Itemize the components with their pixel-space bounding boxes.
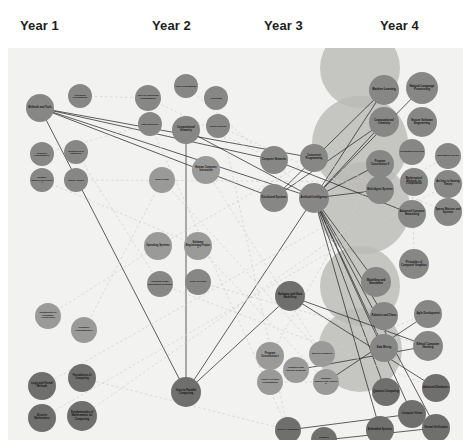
course-node[interactable]: Object Oriented Programming <box>257 369 283 395</box>
course-node-label: Operating Systems <box>145 245 171 248</box>
course-node-label: Modelling and Simulation <box>361 279 391 285</box>
course-node[interactable]: Web Development <box>309 341 335 367</box>
course-node[interactable]: Data Structures <box>138 112 162 136</box>
course-node-label: Principles of Computer Graphics <box>399 261 429 267</box>
course-node-label: Multi-Agent Systems <box>366 189 394 192</box>
course-node-label: Robotics and Chaos <box>371 315 398 318</box>
course-node[interactable]: Robotics and Chaos <box>370 302 398 330</box>
course-node-label: Introduction to Computer Architecture <box>35 312 61 320</box>
column-header-year-3: Year 3 <box>264 18 303 33</box>
course-node[interactable]: Machine Learning <box>369 75 399 105</box>
graph-canvas[interactable]: Methods and ToolsFunctional ProgrammingC… <box>8 48 463 440</box>
course-node[interactable]: Program Construction I <box>256 342 284 370</box>
course-node-label: Information Retrieval <box>399 151 425 154</box>
course-node[interactable]: Secure Software Engineering <box>407 107 437 137</box>
course-node[interactable]: Logic and Formal Methods <box>28 372 56 400</box>
course-node[interactable]: Digital Systems <box>206 114 230 138</box>
course-node[interactable]: Concurrent Programming <box>300 144 328 172</box>
course-node[interactable]: Formal Verification <box>422 414 450 440</box>
course-node[interactable]: Data Mining <box>370 334 398 362</box>
course-node[interactable]: Computer Networks <box>260 146 288 174</box>
course-node-label: Program Construction II <box>366 161 394 167</box>
course-node-label: Distributed Systems <box>261 197 288 200</box>
course-node-label: Sparse Matrices and Systems <box>434 209 462 215</box>
course-node[interactable]: Mathematical Methods for Computation <box>400 168 428 196</box>
course-node[interactable]: Information Theory <box>435 143 461 169</box>
curriculum-graph-app: Year 1Year 2Year 3Year 4 Methods and Too… <box>0 0 470 444</box>
course-node-label: Computer Programming I <box>30 152 54 157</box>
course-node[interactable]: Artificial Intelligence <box>299 183 329 213</box>
course-node[interactable]: Web Design <box>149 167 175 193</box>
course-node-label: Matrix Algebra <box>67 179 84 181</box>
course-node-label: Software Engineering Project 1 <box>184 242 212 251</box>
course-node-label: Fundamentals of Mathematics for Computin… <box>67 411 97 420</box>
course-node[interactable]: Networks and Internet Systems <box>283 357 309 383</box>
course-node[interactable]: Multi-Agent Systems <box>366 176 394 204</box>
course-node[interactable]: Computer Programming I <box>30 142 54 166</box>
course-node[interactable]: Compiler Engineering <box>311 427 337 440</box>
course-node[interactable]: Distributed Systems <box>260 184 288 212</box>
course-node[interactable]: Ethical Computer Hacking <box>413 331 443 361</box>
course-node[interactable]: Natural Language Processing <box>406 72 438 104</box>
course-node-label: Quantum Computing <box>372 391 400 394</box>
course-node[interactable]: Fundamentals of Mathematics for Computin… <box>67 401 97 431</box>
course-node[interactable]: Intro to Functional Programming <box>135 85 161 111</box>
course-node[interactable]: Principles of Computer Graphics <box>399 249 429 279</box>
course-node-label: Advanced Computer Networking <box>398 211 426 217</box>
course-node-label: Software Engineering Project 2 <box>313 378 339 386</box>
course-node[interactable]: Introduction to Databases <box>64 140 88 164</box>
course-node[interactable]: Discrete Mathematics <box>28 404 56 432</box>
course-node[interactable]: Quantum Computing <box>372 378 400 406</box>
course-node[interactable]: Computational Creativity <box>369 107 399 137</box>
course-node-label: Natural Language Processing <box>406 85 438 92</box>
course-node[interactable]: Cyber Security <box>185 269 211 295</box>
course-node-label: Digital Systems <box>209 125 228 127</box>
course-node-label: Concurrent Programming <box>300 155 328 161</box>
course-node[interactable]: Matrix Algebra <box>64 168 88 192</box>
course-node-label: Object Oriented Programming <box>257 379 283 384</box>
course-node[interactable]: Software and Data Modelling <box>275 281 305 311</box>
course-node-label: Foundations of Computing <box>68 375 96 381</box>
course-node[interactable]: Sparse Matrices and Systems <box>434 198 462 226</box>
course-node[interactable]: Information Retrieval <box>399 139 425 165</box>
course-node[interactable]: Embedded Systems <box>366 416 394 440</box>
course-node[interactable]: Intro to Parallel Computing <box>171 377 201 407</box>
course-node[interactable]: Software Engineering Project 1 <box>30 168 54 192</box>
course-node-label: Intro to Functional Programming <box>135 95 161 100</box>
course-node[interactable]: Operating Systems <box>144 232 172 260</box>
course-node-label: Networks and Internet Systems <box>283 367 309 372</box>
course-node-label: Software Engineering Project 1 <box>30 176 54 183</box>
course-node[interactable]: Databases and Information Systems <box>147 271 173 297</box>
course-node[interactable]: Human Computer Interaction <box>192 156 220 184</box>
course-node[interactable]: Program Construction II <box>366 150 394 178</box>
course-node[interactable]: Foundations of Computing <box>68 364 96 392</box>
course-node[interactable]: Intro to Algorithms <box>275 417 301 440</box>
course-node[interactable]: Functional Programming <box>68 84 92 108</box>
course-node[interactable]: Agile Development <box>414 300 442 328</box>
course-node[interactable]: Advanced Databases <box>422 374 450 402</box>
nodes-layer: Methods and ToolsFunctional ProgrammingC… <box>8 48 463 440</box>
course-node-label: Embedded Systems <box>367 429 394 432</box>
course-node-label: Functional Programming <box>68 94 92 99</box>
course-node-label: Information Theory <box>436 155 460 158</box>
course-node-label: Web Development <box>311 353 334 356</box>
course-node-label: Compiler Engineering <box>311 437 337 440</box>
course-node[interactable]: Software Engineering Project 1 <box>184 232 212 260</box>
course-node-label: Methods and Tools <box>27 107 52 110</box>
course-node[interactable]: An Intro to Gaming Theory <box>434 170 462 198</box>
course-node[interactable]: Logic Programming <box>174 74 198 98</box>
course-node[interactable]: Algorithms <box>204 86 228 110</box>
course-node-label: An Intro to Gaming Theory <box>434 181 462 187</box>
course-node-label: Advanced Databases <box>422 387 450 390</box>
course-node[interactable]: Advanced Computer Networking <box>398 200 426 228</box>
course-node[interactable]: Modelling and Simulation <box>361 267 391 297</box>
course-node[interactable]: Software Engineering Project 2 <box>313 369 339 395</box>
column-header-year-1: Year 1 <box>20 18 59 33</box>
course-node-label: Computational Creativity <box>369 119 399 125</box>
course-node[interactable]: Introduction to Computer Architecture <box>35 303 61 329</box>
course-node[interactable]: Computational Geometry <box>172 116 200 144</box>
course-node-label: Human Computer Interaction <box>192 167 220 173</box>
course-node[interactable]: Methods and Tools <box>26 94 54 122</box>
column-headers: Year 1Year 2Year 3Year 4 <box>0 0 470 50</box>
course-node[interactable]: Computer Programming II <box>71 317 97 343</box>
